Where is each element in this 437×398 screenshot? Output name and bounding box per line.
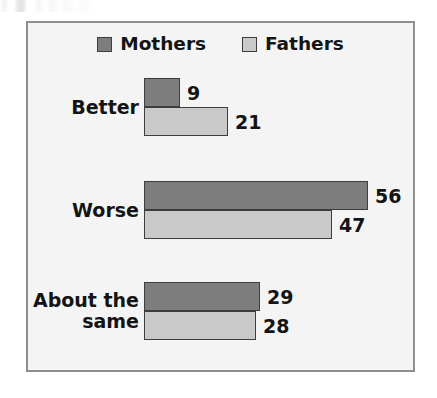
bar-value-fathers-worse: 47: [339, 215, 365, 234]
bar-mothers-worse: [144, 181, 368, 210]
bar-fathers-about-the-same: [144, 311, 256, 340]
category-label-line1: Worse: [72, 200, 139, 221]
plot-area: Better 9 21 Worse 56: [28, 23, 413, 370]
bar-value-mothers-about-the-same: 29: [267, 287, 293, 306]
category-label-line2: same: [82, 311, 139, 332]
category-label-better: Better: [0, 78, 139, 136]
bar-mothers-better: [144, 78, 180, 107]
bar-group-worse: Worse 56 47: [28, 181, 413, 239]
scan-artifact-cropped-text: [0, 0, 110, 12]
bar-value-mothers-better: 9: [187, 83, 200, 102]
bar-mothers-about-the-same: [144, 282, 260, 311]
chart-frame: Mothers Fathers Better 9 21: [26, 21, 415, 372]
bar-group-better: Better 9 21: [28, 78, 413, 136]
bar-value-fathers-better: 21: [235, 112, 261, 131]
category-label-worse: Worse: [0, 181, 139, 239]
category-label-about-the-same: About the same: [0, 282, 139, 340]
bar-value-fathers-about-the-same: 28: [263, 316, 289, 335]
bar-fathers-worse: [144, 210, 332, 239]
category-label-line1: About the: [33, 290, 139, 311]
bar-fathers-better: [144, 107, 228, 136]
category-label-line1: Better: [71, 97, 139, 118]
bar-group-about-the-same: About the same 29 28: [28, 282, 413, 340]
bar-value-mothers-worse: 56: [375, 186, 401, 205]
